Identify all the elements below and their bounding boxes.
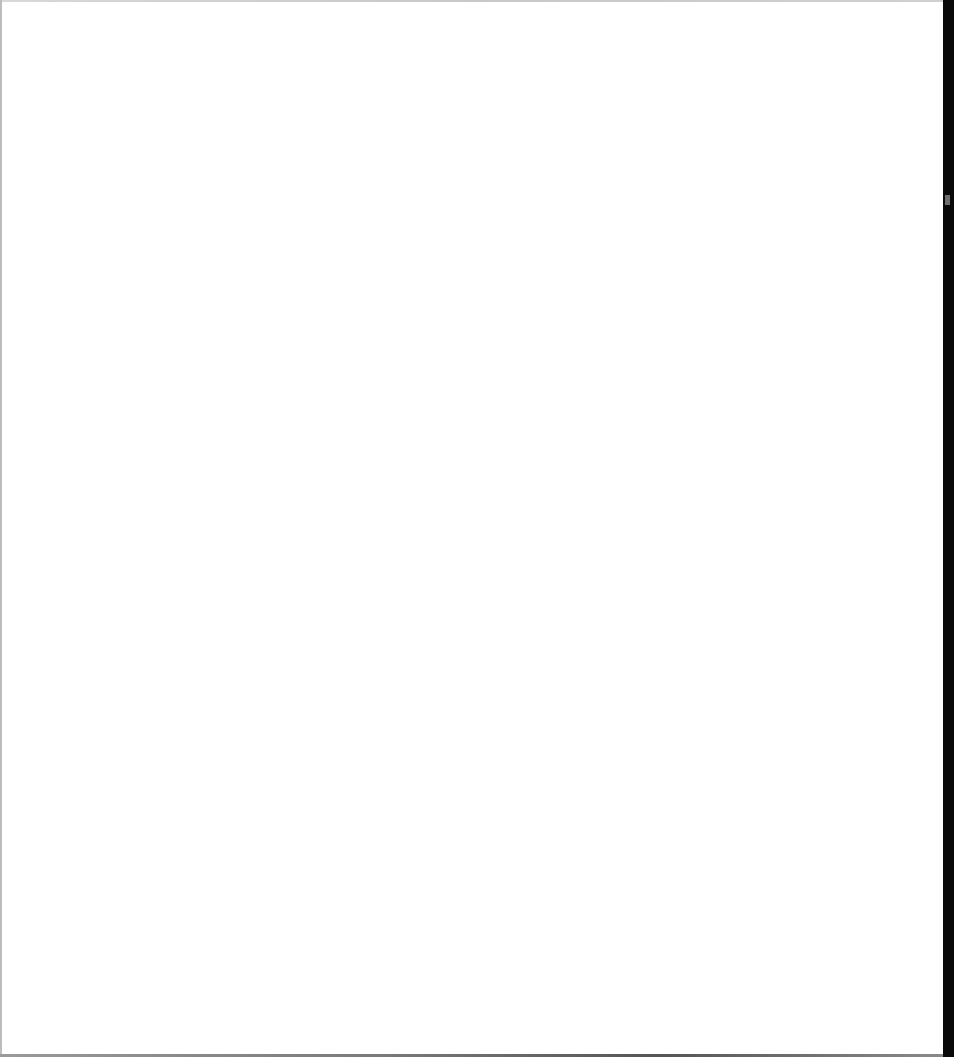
blank-content-area: [2, 2, 941, 1054]
application-window: [0, 0, 954, 1057]
vertical-scrollbar-track[interactable]: [943, 0, 954, 1057]
scrollbar-thumb[interactable]: [945, 195, 950, 205]
